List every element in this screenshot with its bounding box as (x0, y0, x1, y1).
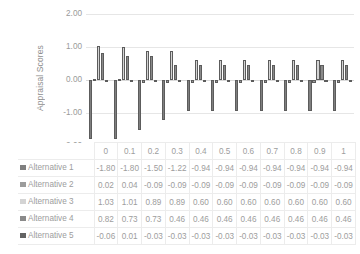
bar[interactable] (114, 80, 117, 139)
bar[interactable] (320, 65, 323, 80)
bar[interactable] (235, 80, 238, 111)
bar[interactable] (292, 60, 295, 80)
series-name-text: Alternative 1 (28, 164, 74, 173)
bar[interactable] (174, 65, 177, 80)
bar-group (159, 14, 183, 146)
bar[interactable] (130, 80, 133, 82)
bar[interactable] (251, 80, 254, 82)
bar[interactable] (268, 60, 271, 80)
bar-group (110, 14, 134, 146)
table-cell-value: -0.09 (165, 177, 189, 194)
table-cell-value: 0.46 (189, 211, 213, 228)
bar[interactable] (122, 47, 125, 80)
bar[interactable] (223, 65, 226, 80)
bar-plot-canvas (86, 14, 354, 146)
y-axis-tick-label: -1.00 (50, 109, 82, 117)
bar[interactable] (300, 80, 303, 82)
table-cell-value: -0.09 (237, 177, 261, 194)
table-cell-value: 0.60 (260, 194, 284, 211)
table-cell-value: -0.03 (142, 228, 166, 245)
bar-group (330, 14, 354, 146)
table-cell-value: 0.60 (308, 194, 332, 211)
table-cell-value: 0.89 (142, 194, 166, 211)
y-axis-tick-labels: 2.001.000.00-1.00-2.00 (50, 0, 82, 152)
bar[interactable] (345, 65, 348, 80)
bar[interactable] (166, 80, 169, 83)
bar[interactable] (260, 80, 263, 111)
bar[interactable] (308, 80, 311, 111)
y-axis-title: Appraisal Scores (33, 28, 47, 128)
table-cell-value: 0.89 (165, 194, 189, 211)
bar[interactable] (138, 80, 141, 130)
bar[interactable] (126, 56, 129, 80)
bar[interactable] (219, 60, 222, 80)
table-cell-value: -0.09 (284, 177, 308, 194)
bar[interactable] (162, 80, 165, 120)
table-cell-value: -0.94 (237, 160, 261, 177)
bar[interactable] (195, 60, 198, 80)
bar[interactable] (105, 80, 108, 82)
bar[interactable] (243, 60, 246, 80)
table-column-header: 0.3 (165, 143, 189, 160)
bar[interactable] (101, 53, 104, 80)
table-cell-value: -0.03 (332, 228, 356, 245)
bar[interactable] (341, 60, 344, 80)
table-cell-value: 0.73 (142, 211, 166, 228)
bar[interactable] (203, 80, 206, 82)
bar[interactable] (211, 80, 214, 111)
bar[interactable] (142, 80, 145, 83)
bar[interactable] (337, 80, 340, 83)
table-column-header: 0.9 (308, 143, 332, 160)
legend-swatch-icon (20, 199, 26, 205)
series-legend-label: Alternative 3 (18, 194, 94, 211)
table-column-header: 0 (94, 143, 118, 160)
bar[interactable] (215, 80, 218, 83)
table-cell-value: -0.03 (189, 228, 213, 245)
bar[interactable] (284, 80, 287, 111)
bar[interactable] (199, 65, 202, 80)
bar[interactable] (324, 80, 327, 82)
bar[interactable] (276, 80, 279, 82)
table-cell-value: -0.09 (189, 177, 213, 194)
bar[interactable] (170, 51, 173, 80)
bar[interactable] (227, 80, 230, 82)
bar[interactable] (296, 65, 299, 80)
table-cell-value: -0.94 (332, 160, 356, 177)
series-name-text: Alternative 2 (28, 181, 74, 190)
bar[interactable] (97, 46, 100, 80)
legend-swatch-icon (20, 233, 26, 239)
bar[interactable] (247, 65, 250, 80)
table-cell-value: 0.46 (165, 211, 189, 228)
bar[interactable] (150, 56, 153, 80)
table-cell-value: -0.03 (165, 228, 189, 245)
bar[interactable] (272, 65, 275, 80)
series-name-text: Alternative 4 (28, 215, 74, 224)
bar[interactable] (146, 51, 149, 80)
series-name-text: Alternative 3 (28, 198, 74, 207)
bar[interactable] (333, 80, 336, 111)
bar[interactable] (316, 60, 319, 80)
bar[interactable] (89, 80, 92, 139)
bar[interactable] (264, 80, 267, 83)
legend-swatch-icon (20, 165, 26, 171)
bar[interactable] (118, 79, 121, 81)
bar[interactable] (312, 80, 315, 83)
bar[interactable] (288, 80, 291, 83)
bar[interactable] (93, 79, 96, 81)
series-name-text: Alternative 5 (28, 232, 74, 241)
table-cell-value: 0.60 (332, 194, 356, 211)
table-column-header: 0.1 (118, 143, 142, 160)
bar[interactable] (187, 80, 190, 111)
bar[interactable] (239, 80, 242, 83)
bar[interactable] (154, 80, 157, 82)
table-cell-value: -0.09 (142, 177, 166, 194)
table-cell-value: -1.80 (94, 160, 118, 177)
table-corner-cell (18, 143, 94, 160)
table-cell-value: -1.50 (142, 160, 166, 177)
bar-group (305, 14, 329, 146)
table-row: Alternative 5-0.060.01-0.03-0.03-0.03-0.… (18, 228, 356, 245)
bar[interactable] (191, 80, 194, 83)
bar[interactable] (178, 80, 181, 82)
bar[interactable] (349, 80, 352, 82)
legend-swatch-icon (20, 182, 26, 188)
